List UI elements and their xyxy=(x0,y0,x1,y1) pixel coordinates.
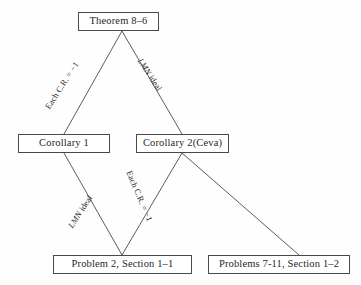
edge-label-corollary2-to-problem2: Each C.R. = −1 xyxy=(124,169,154,223)
edge-label-theorem-to-corollary2: LMN ideal xyxy=(136,56,165,93)
edge-corollary2-to-problem2 xyxy=(122,153,182,255)
node-problem-2-section-1-1-label: Problem 2, Section 1–1 xyxy=(72,259,174,270)
node-corollary-2-ceva-label: Corollary 2(Ceva) xyxy=(143,138,222,149)
node-problem-2-section-1-1[interactable]: Problem 2, Section 1–1 xyxy=(53,255,192,274)
edge-label-theorem-to-corollary1: Each C.R. = −1 xyxy=(43,60,81,111)
node-corollary-1-label: Corollary 1 xyxy=(39,138,89,149)
node-corollary-2-ceva[interactable]: Corollary 2(Ceva) xyxy=(136,134,229,153)
edge-label-corollary1-to-problem2: LMN ideal xyxy=(66,193,95,230)
node-theorem-8-6-label: Theorem 8–6 xyxy=(90,16,148,27)
node-problems-7-11-section-1-2[interactable]: Problems 7-11, Section 1–2 xyxy=(208,255,350,274)
node-corollary-1[interactable]: Corollary 1 xyxy=(18,134,110,153)
diagram-canvas: Each C.R. = −1 LMN ideal LMN ideal Each … xyxy=(0,0,361,285)
edge-corollary2-to-problems711 xyxy=(182,153,299,255)
node-problems-7-11-section-1-2-label: Problems 7-11, Section 1–2 xyxy=(219,259,339,270)
edge-corollary1-to-problem2 xyxy=(64,153,122,255)
edge-theorem-to-corollary1 xyxy=(64,31,122,134)
node-theorem-8-6[interactable]: Theorem 8–6 xyxy=(78,12,159,31)
